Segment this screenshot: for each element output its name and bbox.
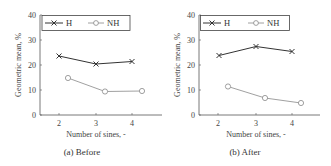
circle-marker-icon [94,21,99,26]
series-h-line [219,47,292,56]
x-tick-label: 3 [94,119,98,128]
figure: 0 10 20 30 40 2 3 4 Number of sines, - G… [0,0,331,166]
series-nh-markers [225,84,303,106]
series-h-markers [217,44,295,58]
x-axis-label: Number of sines, - [226,130,286,139]
x-tick-label: 4 [290,119,294,128]
y-axis-label: Geometric mean, % [14,33,23,97]
y-tick-label: 40 [187,11,195,20]
x-tick-label: 3 [254,119,258,128]
y-tick-label: 30 [187,36,195,45]
y-tick-label: 10 [187,86,195,95]
x-tick-label: 2 [57,119,61,128]
x-axis-label: Number of sines, - [66,130,126,139]
caption-before: (a) Before [64,147,101,157]
y-axis-label: Geometric mean, % [173,33,182,97]
x-tick-label: 4 [130,119,134,128]
x-tick-label: 2 [216,119,220,128]
y-tick-label: 20 [187,61,195,70]
caption-after: (b) After [229,147,260,157]
y-tick-label: 30 [28,36,36,45]
y-tick-label: 10 [28,86,36,95]
y-tick-label: 0 [191,111,195,120]
legend: H NH [42,16,130,31]
legend-label-nh: NH [107,18,119,28]
legend-label-h: H [66,18,72,28]
y-tick-label: 40 [28,11,36,20]
legend-label-nh: NH [267,18,279,28]
panel-before: 0 10 20 30 40 2 3 4 Number of sines, - G… [14,11,162,157]
y-tick-label: 20 [28,61,36,70]
legend: H NH [201,16,290,31]
y-tick-label: 0 [32,111,36,120]
series-h-markers [57,54,135,67]
legend-label-h: H [224,18,230,28]
circle-marker-icon [254,21,259,26]
panel-after: 0 10 20 30 40 2 3 4 Number of sines, - G… [173,11,320,157]
